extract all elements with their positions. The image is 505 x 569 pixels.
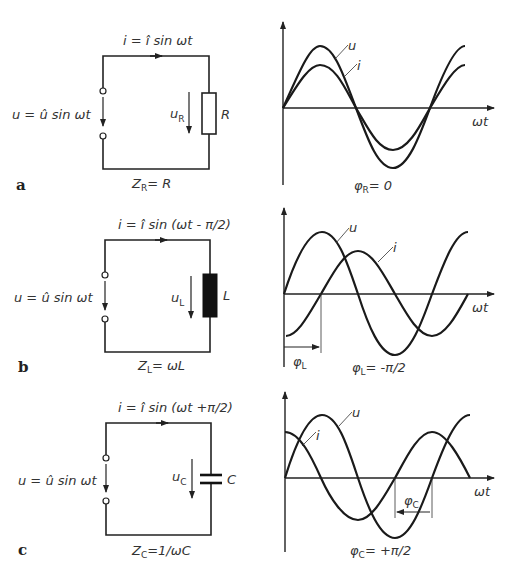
wire-bottom-b xyxy=(105,317,210,352)
voltage-label-a: uR xyxy=(170,106,185,124)
leader-line xyxy=(336,228,349,243)
circuit-b: i = î sin (ωt - π/2) u = û sin ωt L uL Z… xyxy=(14,217,231,376)
impedance-c: ZC=1/ωC xyxy=(131,543,192,560)
current-equation-c: i = î sin (ωt +π/2) xyxy=(118,400,233,415)
shift-label-b: φL xyxy=(293,354,307,371)
u-label-b: u xyxy=(349,220,357,235)
source-equation-c: u = û sin ωt xyxy=(18,473,97,488)
graph-b: u i ωt φL φL= -π/2 xyxy=(284,208,494,377)
shift-label-c: φC xyxy=(404,493,419,510)
component-label-b: L xyxy=(223,288,230,303)
ac-circuits-figure: i = î sin ωt u = û sin ωt R uR ZR= R a xyxy=(0,0,505,569)
phase-b: φL= -π/2 xyxy=(352,360,406,377)
current-curve-i xyxy=(285,432,470,520)
leader-line xyxy=(343,64,357,78)
phase-c: φC= +π/2 xyxy=(350,543,411,560)
impedance-a: ZR= R xyxy=(131,176,171,193)
phase-a: φR= 0 xyxy=(354,178,392,195)
voltage-label-b: uL xyxy=(171,290,184,308)
wire-bottom-a xyxy=(103,134,209,169)
terminal-icon xyxy=(102,272,108,278)
source-equation-b: u = û sin ωt xyxy=(14,290,93,305)
capacitor-icon xyxy=(200,475,222,483)
current-equation-b: i = î sin (ωt - π/2) xyxy=(118,217,231,232)
x-axis-label-c: ωt xyxy=(474,484,491,499)
panel-letter-c: c xyxy=(18,541,27,559)
x-axis-label-b: ωt xyxy=(472,300,489,315)
source-equation-a: u = û sin ωt xyxy=(12,107,91,122)
component-label-c: C xyxy=(227,472,237,487)
terminal-icon xyxy=(100,133,106,139)
i-label-c: i xyxy=(316,428,320,443)
x-axis-label-a: ωt xyxy=(472,114,489,129)
current-equation-a: i = î sin ωt xyxy=(123,33,193,48)
wire-top-c xyxy=(106,423,211,475)
leader-line xyxy=(302,432,316,446)
impedance-b: ZL= ωL xyxy=(137,358,185,375)
i-label-a: i xyxy=(357,58,361,73)
terminal-icon xyxy=(100,88,106,94)
panel-c: i = î sin (ωt +π/2) u = û sin ωt C uC ZC… xyxy=(18,392,494,560)
resistor-icon xyxy=(202,93,216,134)
graph-a: u i ωt φR= 0 xyxy=(283,22,494,195)
circuit-c: i = î sin (ωt +π/2) u = û sin ωt C uC ZC… xyxy=(18,400,237,560)
voltage-curve-u xyxy=(283,46,465,168)
u-label-a: u xyxy=(348,38,356,53)
terminal-icon xyxy=(103,498,109,504)
i-label-b: i xyxy=(393,240,397,255)
component-label-a: R xyxy=(221,107,230,122)
wire-top-b xyxy=(105,240,210,274)
voltage-label-c: uC xyxy=(172,469,187,487)
wire-top-a xyxy=(103,56,209,93)
u-label-c: u xyxy=(352,405,360,420)
voltage-curve-u xyxy=(285,415,470,538)
leader-line xyxy=(339,412,352,426)
graph-c: u i ωt φC φC= +π/2 xyxy=(285,392,494,560)
terminal-icon xyxy=(102,316,108,322)
terminal-icon xyxy=(103,455,109,461)
panel-a: i = î sin ωt u = û sin ωt R uR ZR= R a xyxy=(12,22,494,195)
inductor-icon xyxy=(203,274,217,317)
panel-letter-b: b xyxy=(18,358,29,376)
panel-b: i = î sin (ωt - π/2) u = û sin ωt L uL Z… xyxy=(14,208,494,377)
circuit-a: i = î sin ωt u = û sin ωt R uR ZR= R a xyxy=(12,33,230,194)
wire-bottom-c xyxy=(106,483,211,535)
panel-letter-a: a xyxy=(16,176,26,194)
leader-line xyxy=(335,45,348,59)
leader-line xyxy=(378,247,393,262)
